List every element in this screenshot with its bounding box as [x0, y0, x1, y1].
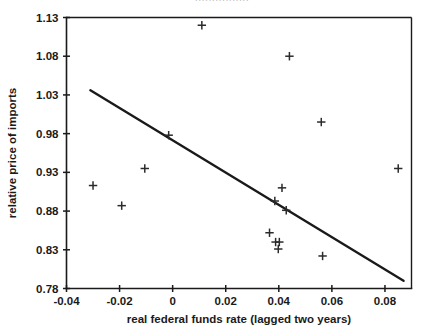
y-tick-label: 1.03	[36, 89, 58, 101]
x-tick-label: 0.04	[268, 295, 291, 307]
y-tick-label: 0.88	[36, 205, 59, 217]
data-point-marker	[118, 201, 126, 209]
data-point-marker	[275, 238, 283, 246]
data-point-marker	[318, 252, 326, 260]
x-tick-label: 0	[169, 295, 175, 307]
y-tick-labels: 0.780.830.880.930.981.031.081.13	[36, 12, 59, 295]
plot-frame	[67, 18, 412, 289]
data-point-marker	[265, 229, 273, 237]
data-point-marker	[198, 21, 206, 29]
data-point-marker	[285, 52, 293, 60]
data-point-marker	[278, 184, 286, 192]
data-point-marker	[394, 164, 402, 172]
y-tick-label: 0.83	[36, 244, 58, 256]
data-point-marker	[141, 164, 149, 172]
x-tick-label: -0.02	[106, 295, 132, 307]
y-tick-label: 0.98	[36, 128, 59, 140]
x-tick-labels: -0.04-0.0200.020.040.060.08	[53, 295, 396, 307]
y-axis-label: relative price of imports	[6, 88, 18, 218]
data-point-marker	[317, 118, 325, 126]
x-tick-label: 0.06	[321, 295, 343, 307]
x-axis-label: real federal funds rate (lagged two year…	[127, 313, 351, 325]
x-tick-label: 0.02	[215, 295, 237, 307]
regression-fit-line	[90, 90, 403, 280]
data-point-marker	[164, 131, 172, 139]
x-tick-label: -0.04	[53, 295, 80, 307]
data-points	[89, 21, 403, 260]
data-point-marker	[89, 181, 97, 189]
chart-canvas: -0.04-0.0200.020.040.060.08 0.780.830.88…	[0, 0, 444, 329]
x-tick-label: 0.08	[374, 295, 397, 307]
clipped-header-text: ················	[0, 0, 444, 2]
y-tick-label: 1.08	[36, 50, 59, 62]
y-tick-label: 1.13	[36, 12, 58, 24]
regression-line	[90, 90, 403, 280]
y-tick-label: 0.78	[36, 283, 59, 295]
scatter-plot-figure: ················ -0.04-0.0200.020.040.06…	[0, 0, 444, 329]
y-tick-label: 0.93	[36, 166, 58, 178]
axis-ticks	[63, 18, 385, 293]
